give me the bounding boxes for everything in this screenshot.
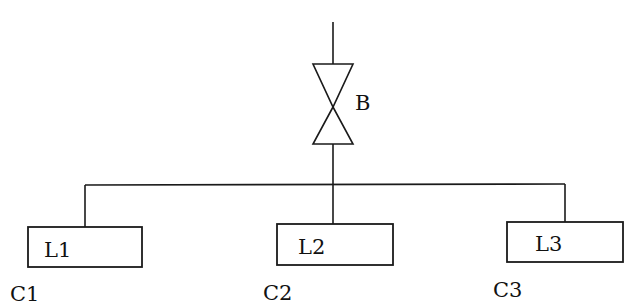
load-box-l3 — [507, 222, 623, 262]
piping-diagram: B L1 C1 L2 C2 L3 C3 — [0, 0, 632, 307]
caption-c1: C1 — [10, 282, 39, 306]
gate-valve-icon — [313, 64, 353, 144]
load-box-l2 — [277, 224, 393, 265]
header-pipe — [85, 184, 565, 185]
valve-label: B — [355, 91, 370, 115]
load-label-l3: L3 — [535, 232, 562, 256]
caption-c2: C2 — [263, 281, 292, 305]
load-label-l2: L2 — [298, 235, 325, 259]
load-label-l1: L1 — [44, 238, 71, 262]
caption-c3: C3 — [493, 278, 522, 302]
